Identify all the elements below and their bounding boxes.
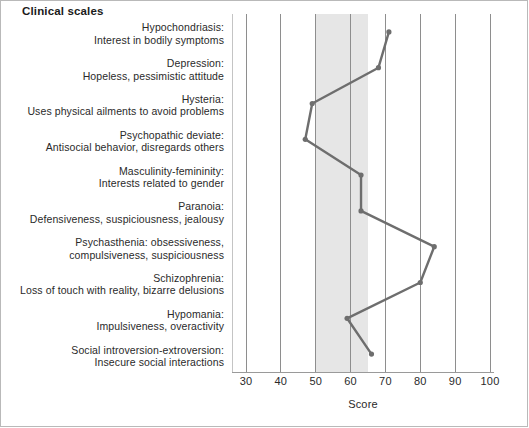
scale-label-line: Hypomania: — [0, 308, 224, 321]
data-point-marker — [432, 244, 437, 249]
scale-label-depression: Depression:Hopeless, pessimistic attitud… — [0, 57, 224, 82]
x-axis-line — [232, 372, 494, 373]
scale-label-hysteria: Hysteria:Uses physical ailments to avoid… — [0, 93, 224, 118]
scale-label-line: Insecure social interactions — [0, 356, 224, 369]
x-tick-label-40: 40 — [275, 375, 288, 387]
scale-label-line: Hopeless, pessimistic attitude — [0, 70, 224, 83]
scale-label-line: Interests related to gender — [0, 177, 224, 190]
scale-label-line: Psychasthenia: obsessiveness, — [0, 236, 224, 249]
scale-label-column: Hypochondriasis:Interest in bodily sympt… — [0, 16, 228, 372]
scale-label-line: Paranoia: — [0, 200, 224, 213]
x-tick-label-90: 90 — [449, 375, 462, 387]
scale-label-line: Schizophrenia: — [0, 272, 224, 285]
scale-label-paranoia: Paranoia:Defensiveness, suspiciousness, … — [0, 200, 224, 225]
x-tick-label-60: 60 — [344, 375, 357, 387]
scale-label-line: Masculinity-femininity: — [0, 165, 224, 178]
scale-label-psychopathic-deviate: Psychopathic deviate:Antisocial behavior… — [0, 129, 224, 154]
scale-label-hypomania: Hypomania:Impulsiveness, overactivity — [0, 308, 224, 333]
data-point-marker — [386, 29, 391, 34]
data-point-marker — [358, 208, 363, 213]
x-axis-title: Score — [232, 398, 494, 410]
x-tick-label-80: 80 — [414, 375, 427, 387]
scale-label-line: Hysteria: — [0, 93, 224, 106]
scale-label-line: Uses physical ailments to avoid problems — [0, 105, 224, 118]
scale-label-line: Antisocial behavior, disregards others — [0, 141, 224, 154]
data-point-marker — [358, 173, 363, 178]
scale-label-line: Hypochondriasis: — [0, 21, 224, 34]
scale-label-line: Loss of touch with reality, bizarre delu… — [0, 284, 224, 297]
scale-label-hypochondriasis: Hypochondriasis:Interest in bodily sympt… — [0, 21, 224, 46]
x-tick-label-100: 100 — [481, 375, 500, 387]
data-point-marker — [310, 101, 315, 106]
plot-area — [232, 14, 494, 372]
scale-label-masculinity-femininity: Masculinity-femininity:Interests related… — [0, 165, 224, 190]
clinical-scales-figure: Clinical scales Hypochondriasis:Interest… — [0, 0, 529, 428]
profile-polyline — [305, 32, 434, 354]
profile-line-series — [232, 14, 494, 372]
scale-label-line: Interest in bodily symptoms — [0, 34, 224, 47]
x-tick-label-70: 70 — [379, 375, 392, 387]
data-point-marker — [376, 65, 381, 70]
x-axis-tick-labels: 30405060708090100 — [232, 375, 512, 391]
scale-label-line: Social introversion-extroversion: — [0, 344, 224, 357]
scale-label-line: Psychopathic deviate: — [0, 129, 224, 142]
scale-label-line: Depression: — [0, 57, 224, 70]
scale-label-line: Impulsiveness, overactivity — [0, 320, 224, 333]
scale-label-psychasthenia: Psychasthenia: obsessiveness,compulsiven… — [0, 236, 224, 261]
scale-label-line: Defensiveness, suspiciousness, jealousy — [0, 213, 224, 226]
data-point-marker — [344, 316, 349, 321]
data-point-marker — [418, 280, 423, 285]
data-point-marker — [303, 137, 308, 142]
x-tick-label-50: 50 — [309, 375, 322, 387]
scale-label-line: compulsiveness, suspiciousness — [0, 249, 224, 262]
data-point-marker — [369, 352, 374, 357]
scale-label-schizophrenia: Schizophrenia:Loss of touch with reality… — [0, 272, 224, 297]
scale-label-social-introversion-extroversion: Social introversion-extroversion:Insecur… — [0, 344, 224, 369]
x-tick-label-30: 30 — [240, 375, 253, 387]
